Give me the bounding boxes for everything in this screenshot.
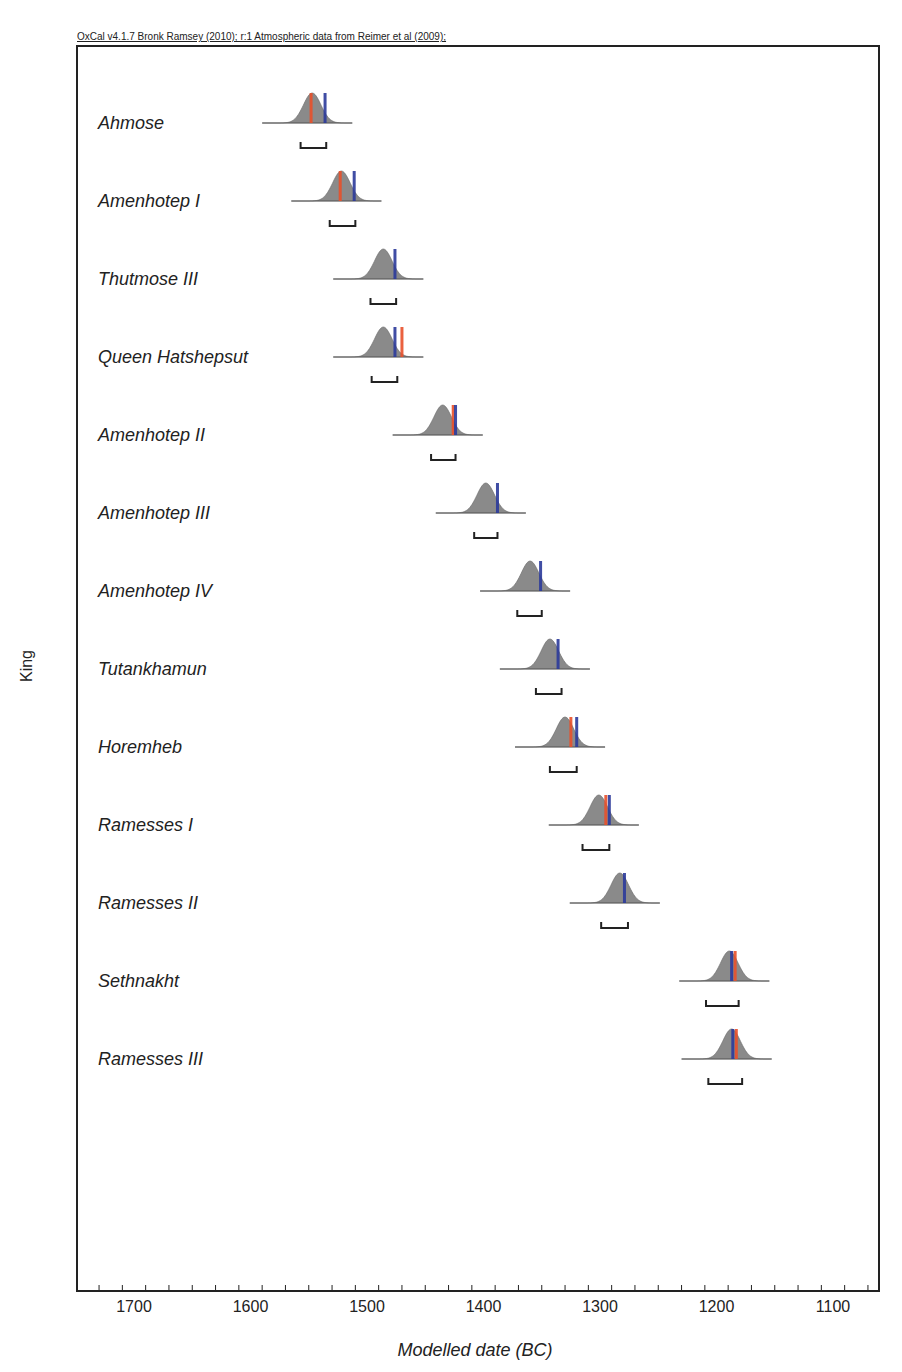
axis-tick-label: 1300 [582, 1298, 618, 1315]
king-label: Amenhotep IV [97, 581, 214, 601]
probability-distribution [333, 249, 423, 279]
red-marker [400, 327, 403, 357]
blue-marker [623, 873, 626, 903]
range-bracket [301, 142, 327, 148]
axis-tick-label: 1500 [349, 1298, 385, 1315]
y-axis-label: King [18, 650, 35, 682]
axis-tick-label: 1600 [233, 1298, 269, 1315]
range-bracket [583, 844, 610, 850]
x-axis: 1700160015001400130012001100 [99, 1285, 868, 1315]
probability-distribution [549, 795, 639, 825]
king-label: Amenhotep II [97, 425, 205, 445]
king-row: Ramesses III [98, 1029, 772, 1084]
king-label: Ahmose [97, 113, 164, 133]
range-bracket [517, 610, 541, 616]
range-bracket [550, 766, 577, 772]
probability-distribution [570, 873, 660, 903]
axis-tick-label: 1200 [699, 1298, 735, 1315]
king-row: Queen Hatshepsut [98, 327, 423, 382]
probability-distribution [393, 405, 483, 435]
probability-distribution [291, 171, 381, 201]
king-row: Ramesses II [98, 873, 660, 928]
king-row: Sethnakht [98, 951, 769, 1006]
range-bracket [370, 298, 396, 304]
range-bracket [536, 688, 562, 694]
king-row: Amenhotep III [97, 483, 526, 538]
blue-marker [731, 1029, 734, 1059]
blue-marker [730, 951, 733, 981]
red-marker [569, 717, 572, 747]
x-axis-label: Modelled date (BC) [397, 1340, 552, 1360]
red-marker [735, 1029, 738, 1059]
probability-distribution [679, 951, 769, 981]
axis-tick-label: 1700 [116, 1298, 152, 1315]
king-row: Amenhotep I [97, 171, 381, 226]
king-label: Ramesses II [98, 893, 198, 913]
king-label: Ramesses I [98, 815, 193, 835]
range-bracket [372, 376, 398, 382]
king-label: Queen Hatshepsut [98, 347, 249, 367]
probability-distribution [500, 639, 590, 669]
red-marker [604, 795, 607, 825]
blue-marker [539, 561, 542, 591]
king-row: Tutankhamun [98, 639, 590, 694]
blue-marker [353, 171, 356, 201]
range-bracket [431, 454, 455, 460]
king-row: Ramesses I [98, 795, 639, 850]
blue-marker [557, 639, 560, 669]
king-label: Thutmose III [98, 269, 198, 289]
range-bracket [708, 1078, 742, 1084]
probability-distribution [262, 93, 352, 123]
blue-marker [393, 327, 396, 357]
blue-marker [393, 249, 396, 279]
king-label: Sethnakht [98, 971, 180, 991]
probability-distribution [515, 717, 605, 747]
king-label: Amenhotep I [97, 191, 200, 211]
king-row: Amenhotep II [97, 405, 483, 460]
chart-svg: AhmoseAmenhotep IThutmose IIIQueen Hatsh… [0, 0, 902, 1372]
king-row: Ahmose [97, 93, 352, 148]
blue-marker [608, 795, 611, 825]
king-label: Ramesses III [98, 1049, 203, 1069]
red-marker [734, 951, 737, 981]
axis-tick-label: 1100 [816, 1298, 851, 1315]
red-marker [310, 93, 313, 123]
probability-distribution [682, 1029, 772, 1059]
blue-marker [454, 405, 457, 435]
range-bracket [474, 532, 497, 538]
axis-tick-label: 1400 [466, 1298, 502, 1315]
probability-distribution [333, 327, 423, 357]
blue-marker [496, 483, 499, 513]
distribution-rows: AhmoseAmenhotep IThutmose IIIQueen Hatsh… [97, 93, 772, 1084]
blue-marker [575, 717, 578, 747]
range-bracket [601, 922, 628, 928]
king-label: Amenhotep III [97, 503, 210, 523]
probability-distribution [480, 561, 570, 591]
red-marker [339, 171, 342, 201]
blue-marker [324, 93, 327, 123]
king-row: Thutmose III [98, 249, 423, 304]
probability-distribution [436, 483, 526, 513]
king-label: Tutankhamun [98, 659, 207, 679]
range-bracket [706, 1000, 739, 1006]
king-row: Amenhotep IV [97, 561, 570, 616]
king-row: Horemheb [98, 717, 605, 772]
range-bracket [330, 220, 356, 226]
king-label: Horemheb [98, 737, 182, 757]
